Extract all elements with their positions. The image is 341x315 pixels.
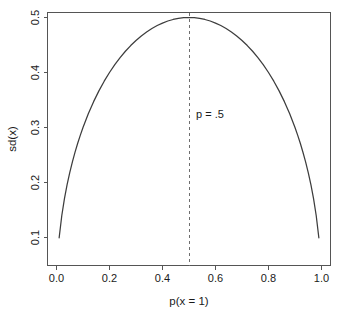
y-tick-label-0.1: 0.1 — [29, 230, 41, 245]
figure-background — [0, 0, 341, 315]
x-tick-label-0.2: 0.2 — [102, 272, 117, 284]
x-axis-title: p(x = 1) — [169, 295, 208, 307]
y-tick-label-0.3: 0.3 — [29, 120, 41, 135]
x-tick-label-0.4: 0.4 — [155, 272, 170, 284]
y-tick-label-0.5: 0.5 — [29, 10, 41, 25]
chart-figure: 0.5 0.4 0.3 0.2 0.1 sd(x) 0.0 0.2 0.4 0.… — [0, 0, 341, 315]
reference-line-label: p = .5 — [196, 108, 224, 120]
bernoulli-sd-plot: 0.5 0.4 0.3 0.2 0.1 sd(x) 0.0 0.2 0.4 0.… — [0, 0, 341, 315]
y-tick-label-0.2: 0.2 — [29, 175, 41, 190]
y-axis-title: sd(x) — [6, 126, 18, 152]
x-tick-label-0.8: 0.8 — [261, 272, 276, 284]
x-tick-label-1.0: 1.0 — [314, 272, 329, 284]
y-tick-label-0.4: 0.4 — [29, 65, 41, 80]
x-tick-label-0.0: 0.0 — [49, 272, 64, 284]
x-tick-label-0.6: 0.6 — [208, 272, 223, 284]
